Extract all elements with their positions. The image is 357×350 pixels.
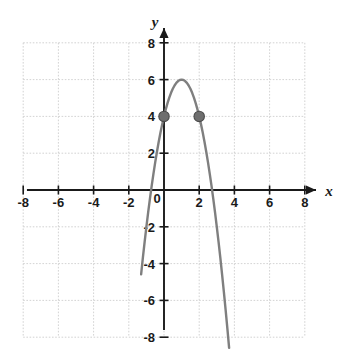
x-tick-label: -8 (17, 195, 29, 210)
y-axis-label: y (150, 14, 159, 30)
chart-background (0, 0, 357, 350)
x-tick-label: 6 (266, 195, 273, 210)
x-tick-label: 8 (301, 195, 308, 210)
y-tick-label: 2 (148, 146, 155, 161)
y-tick-label: 8 (148, 36, 155, 51)
graph-svg: -8-6-4-202468 -8-6-4-22468 x y (0, 0, 357, 350)
y-tick-label: -6 (143, 293, 155, 308)
x-tick-label: 4 (231, 195, 239, 210)
coordinate-plane-graph: -8-6-4-202468 -8-6-4-22468 x y (0, 0, 357, 350)
y-tick-label: -4 (143, 257, 155, 272)
x-tick-label: 2 (196, 195, 203, 210)
y-tick-label: 4 (148, 109, 156, 124)
x-tick-label: 0 (153, 191, 160, 206)
y-tick-label: 6 (148, 73, 155, 88)
x-tick-label: -6 (53, 195, 65, 210)
data-point-marker (194, 111, 204, 121)
data-point-marker (159, 111, 169, 121)
x-tick-label: -2 (123, 195, 135, 210)
x-axis-label: x (324, 183, 333, 199)
x-tick-label: -4 (88, 195, 100, 210)
y-tick-label: -8 (143, 330, 155, 345)
